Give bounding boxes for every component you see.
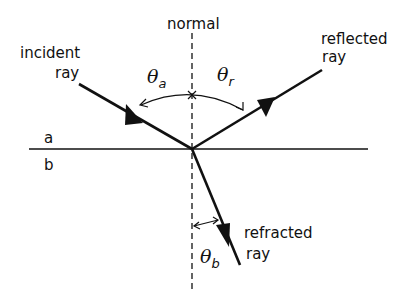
normal-label: normal <box>167 15 220 33</box>
theta-b-label: θb <box>200 245 220 271</box>
reflected-label-line1: reflected <box>321 30 388 48</box>
refracted-arrow-icon <box>216 223 230 247</box>
medium-a-label: a <box>44 129 53 147</box>
refraction-diagram: normal incident ray reflected ray refrac… <box>0 0 410 293</box>
reflected-ray <box>192 70 322 149</box>
incident-label-line2: ray <box>55 64 79 82</box>
refracted-label-line1: refracted <box>244 224 313 242</box>
theta-r-label: θr <box>217 63 235 89</box>
reflected-label-line2: ray <box>322 48 346 66</box>
incident-label-line1: incident <box>20 44 80 62</box>
incident-arrow-icon <box>125 104 143 125</box>
theta-a-label: θa <box>147 65 166 91</box>
medium-b-label: b <box>44 156 54 174</box>
refracted-label-line2: ray <box>246 245 270 263</box>
